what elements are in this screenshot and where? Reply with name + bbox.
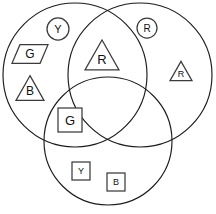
venn-object-square-y: Y: [72, 162, 90, 180]
venn-object-triangle-r-center: R: [85, 40, 119, 70]
shape-label: B: [26, 84, 34, 98]
venn-object-triangle-r-right: R: [170, 61, 192, 80]
venn-objects-group: YGBRRRGYB: [12, 18, 192, 191]
venn-object-triangle-b: B: [16, 76, 44, 101]
venn-object-parallelogram-g: G: [12, 45, 48, 64]
shape-label: B: [113, 177, 119, 187]
venn-diagram-canvas: YGBRRRGYB: [0, 0, 216, 214]
shape-label: G: [25, 47, 34, 61]
shape-label: R: [97, 52, 106, 67]
shape-label: Y: [78, 166, 84, 176]
venn-diagram-svg: YGBRRRGYB: [0, 0, 216, 214]
shape-label: R: [143, 23, 150, 34]
shape-label: G: [65, 113, 75, 128]
venn-object-square-g: G: [58, 108, 82, 132]
shape-label: Y: [54, 23, 62, 35]
venn-object-circle-r: R: [137, 18, 157, 38]
shape-label: R: [178, 69, 185, 79]
venn-object-square-b: B: [107, 173, 125, 191]
venn-object-circle-y: Y: [47, 18, 69, 40]
